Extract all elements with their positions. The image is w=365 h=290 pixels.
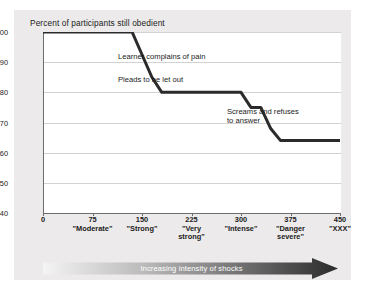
x-tick-caption: "Very strong" [170,225,214,242]
y-axis-tick-label: 90 [0,58,8,67]
arrow-caption: Increasing intensity of shocks [43,264,340,273]
annotation-screams-refuses: Screams and refuses to answer [227,107,299,125]
annotation-learner-complains: Learner complains of pain [118,52,205,61]
x-axis-tick-label: 450"XXX" [318,216,362,233]
y-axis-tick-label: 50 [0,178,8,187]
x-axis-tick-label: 0 [21,216,65,225]
x-tick-caption: "Moderate" [71,225,115,234]
x-axis-tick-label: 225"Very strong" [170,216,214,242]
x-axis-labels: 075"Moderate"150"Strong"225"Very strong"… [43,216,340,256]
y-axis-tick-label: 100 [0,28,8,37]
x-tick-caption: "Danger severe" [269,225,313,242]
x-axis-tick-label: 75"Moderate" [71,216,115,233]
x-axis-tick-label: 375"Danger severe" [269,216,313,242]
x-axis-tick-label: 300"Intense" [219,216,263,233]
chart-figure: Percent of participants still obedient 1… [14,10,351,280]
x-tick-caption: "Intense" [219,225,263,234]
y-axis-tick-label: 40 [0,209,8,218]
annotation-pleads-let-out: Pleads to be let out [118,75,183,84]
y-axis-tick-label: 70 [0,118,8,127]
x-axis-tick-label: 150"Strong" [120,216,164,233]
intensity-arrow: Increasing intensity of shocks [43,258,340,282]
y-axis-tick-label: 60 [0,148,8,157]
chart-title: Percent of participants still obedient [30,18,165,28]
x-tick-value: 0 [21,216,65,225]
x-tick-caption: "XXX" [318,225,362,234]
y-axis-tick-label: 80 [0,88,8,97]
x-tick-caption: "Strong" [120,225,164,234]
